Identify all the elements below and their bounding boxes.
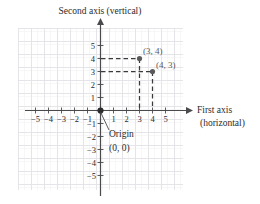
y-tick-label-neg1: −1: [87, 119, 96, 129]
x-tick-label-neg5: −5: [31, 114, 40, 124]
point-label-4-3: (4, 3): [156, 60, 176, 70]
y-axis-arrow: [97, 18, 104, 25]
x-tick-label-neg4: −4: [44, 114, 54, 124]
y-tick-label-4: 4: [91, 54, 96, 64]
x-tick-label-neg2: −2: [70, 114, 79, 124]
plotted-points: [97, 56, 155, 114]
origin-label-line2: (0, 0): [109, 143, 130, 154]
point-4-3: [150, 69, 155, 74]
vertical-axis-title: Second axis (vertical): [59, 6, 142, 17]
x-tick-label-2: 2: [124, 114, 128, 124]
y-tick-label-2: 2: [91, 80, 95, 90]
y-tick-label-3: 3: [91, 67, 95, 77]
x-axis-arrow: [186, 107, 193, 114]
y-tick-label-5: 5: [91, 41, 95, 51]
x-tick-label-5: 5: [163, 114, 167, 124]
point-label-3-4: (3, 4): [143, 46, 163, 56]
x-tick-label-3: 3: [137, 114, 141, 124]
coordinate-plane-figure: Second axis (vertical) First axis (horiz…: [0, 0, 260, 204]
y-tick-label-neg4: −4: [87, 158, 97, 168]
coordinate-plane-svg: Second axis (vertical) First axis (horiz…: [0, 0, 260, 204]
horizontal-axis-title-line2: (horizontal): [200, 118, 245, 129]
origin-leader-line: [101, 112, 110, 130]
y-tick-label-neg5: −5: [87, 171, 96, 181]
origin-label-line1: Origin: [109, 129, 134, 139]
y-tick-label-1: 1: [91, 93, 95, 103]
y-tick-label-neg2: −2: [87, 132, 96, 142]
x-tick-label-neg3: −3: [57, 114, 66, 124]
horizontal-axis-title-line1: First axis: [197, 105, 232, 115]
point-3-4: [137, 56, 142, 61]
x-tick-label-1: 1: [111, 114, 115, 124]
y-tick-label-neg3: −3: [87, 145, 96, 155]
